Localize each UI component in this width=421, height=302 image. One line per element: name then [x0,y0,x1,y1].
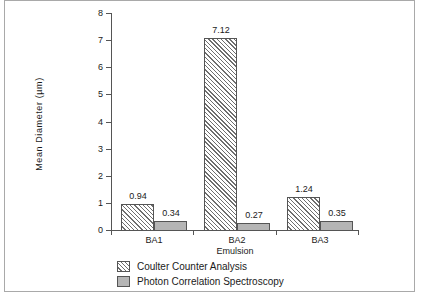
bar-photon-ba3 [320,221,353,231]
y-tick-mark-2 [106,176,111,177]
y-tick-label-0: 0 [79,226,103,235]
legend-swatch-solid-icon [117,276,130,287]
legend-item-coulter: Coulter Counter Analysis [117,259,377,273]
bar-value-photon-ba3: 0.35 [317,209,357,218]
y-tick-label-2: 2 [79,172,103,181]
bar-value-coulter-ba1: 0.94 [118,192,158,201]
y-tick-label-8: 8 [79,9,103,18]
plot-area: 8 7 6 5 4 3 2 1 0 0.94 0.34 BA1 7.12 0.2… [5,1,416,293]
y-tick-mark-7 [106,40,111,41]
y-tick-labels: 8 7 6 5 4 3 2 1 0 [77,1,103,293]
y-tick-label-4: 4 [79,118,103,127]
bar-coulter-ba2 [204,38,237,231]
y-axis-line [111,13,112,231]
legend-label-coulter: Coulter Counter Analysis [137,261,247,272]
bar-coulter-ba1 [121,204,154,231]
y-tick-label-3: 3 [79,145,103,154]
bar-value-coulter-ba2: 7.12 [201,26,241,35]
legend-item-photon: Photon Correlation Spectroscopy [117,274,377,288]
bar-value-photon-ba1: 0.34 [151,209,191,218]
x-group-label-ba3: BA3 [290,235,350,245]
legend-label-photon: Photon Correlation Spectroscopy [137,276,284,287]
y-tick-label-6: 6 [79,63,103,72]
bar-coulter-ba3 [287,197,320,231]
x-axis-title: Emulsion [185,246,285,256]
x-tick-mark-end [358,230,359,235]
bar-photon-ba1 [154,221,187,231]
y-tick-mark-5 [106,94,111,95]
x-tick-mark-start [111,230,112,235]
x-tick-mark-1 [193,230,194,235]
x-tick-mark-2 [276,230,277,235]
y-tick-mark-6 [106,67,111,68]
y-tick-mark-8 [106,13,111,14]
y-tick-mark-4 [106,122,111,123]
bar-photon-ba2 [237,223,270,231]
y-tick-mark-1 [106,203,111,204]
x-group-label-ba1: BA1 [124,235,184,245]
y-tick-label-1: 1 [79,199,103,208]
y-tick-label-5: 5 [79,90,103,99]
y-axis-title: Mean Diameter (µm) [34,54,44,194]
y-tick-mark-3 [106,149,111,150]
legend-swatch-hatched-icon [117,261,130,272]
bar-value-coulter-ba3: 1.24 [284,185,324,194]
y-tick-label-7: 7 [79,36,103,45]
x-group-label-ba2: BA2 [207,235,267,245]
bar-value-photon-ba2: 0.27 [234,211,274,220]
chart-legend: Coulter Counter Analysis Photon Correlat… [117,259,377,289]
figure-frame: 8 7 6 5 4 3 2 1 0 0.94 0.34 BA1 7.12 0.2… [4,0,415,292]
